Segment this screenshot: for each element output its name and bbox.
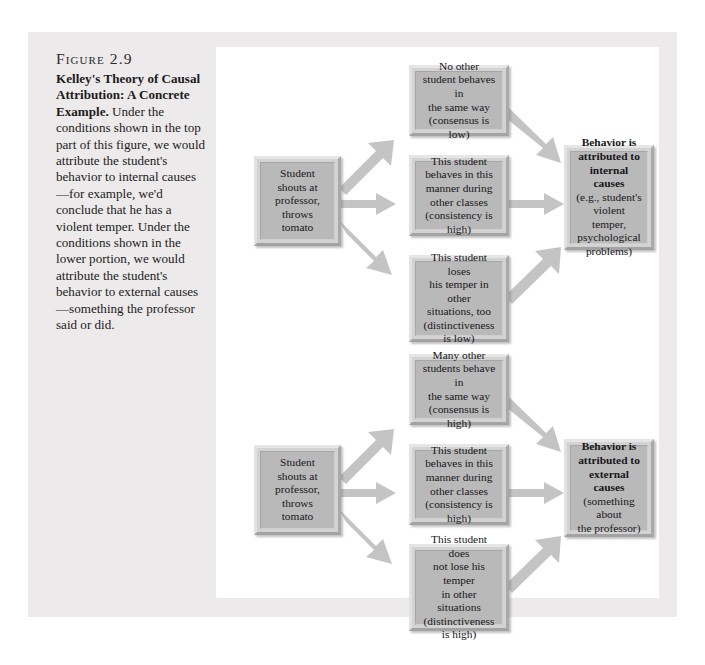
node-bottom-consensus-label: Many otherstudents behave inthe same way… [416,349,502,431]
figure-caption-block: Figure 2.9 Kelley's Theory of Causal Att… [56,50,208,334]
node-top-distinctiveness[interactable]: This student loseshis temper in othersit… [409,255,509,342]
arrow-bottom-cause-to-consensus [339,429,394,484]
node-bottom-consistency-inner: This studentbehaves in thismanner during… [415,450,503,519]
node-top-consensus[interactable]: No otherstudent behaves inthe same way(c… [409,65,509,136]
node-bottom-consistency[interactable]: This studentbehaves in thismanner during… [409,444,509,525]
node-bottom-consensus[interactable]: Many otherstudents behave inthe same way… [409,354,509,425]
node-top-consistency[interactable]: This studentbehaves in thismanner during… [409,155,509,236]
figure-panel: Figure 2.9 Kelley's Theory of Causal Att… [28,32,677,617]
node-bottom-distinctiveness[interactable]: This student doesnot lose his temperin o… [409,544,509,631]
node-bottom-distinctiveness-label: This student doesnot lose his temperin o… [416,533,502,642]
node-top-consistency-label: This studentbehaves in thismanner during… [416,155,502,237]
node-bottom-outcome[interactable]: Behavior isattributed toexternal causes(… [564,439,654,537]
node-bottom-outcome-label: Behavior isattributed toexternal causes(… [571,440,647,535]
node-top-cause[interactable]: Student shouts atprofessor, throwstomato [254,156,341,246]
node-top-distinctiveness-inner: This student loseshis temper in othersit… [415,261,503,336]
arrow-bottom-cause-to-distinctiveness [339,509,392,564]
figure-caption-text: Kelley's Theory of Causal Attribution: A… [56,71,208,334]
arrow-bottom-distinctiveness-to-outcome [505,536,561,593]
node-top-cause-inner: Student shouts atprofessor, throwstomato [260,162,335,240]
arrow-top-cause-to-consistency [339,193,396,215]
node-top-consistency-inner: This studentbehaves in thismanner during… [415,161,503,230]
node-top-outcome-inner: Behavior isattributed tointernal causes(… [570,151,648,244]
node-bottom-cause-label: Student shouts atprofessor, throwstomato [261,456,334,524]
node-bottom-outcome-inner: Behavior isattributed toexternal causes(… [570,445,648,531]
arrow-bottom-cause-to-consistency [339,482,396,504]
node-bottom-cause[interactable]: Student shouts atprofessor, throwstomato [254,445,341,535]
arrow-bottom-consistency-to-outcome [508,482,564,504]
arrow-top-distinctiveness-to-outcome [505,247,561,304]
node-top-consensus-label: No otherstudent behaves inthe same way(c… [416,60,502,142]
diagram-area: Student shouts atprofessor, throwstomato… [216,47,659,598]
arrow-top-cause-to-distinctiveness [339,220,392,275]
node-bottom-consistency-label: This studentbehaves in thismanner during… [416,444,502,526]
node-top-consensus-inner: No otherstudent behaves inthe same way(c… [415,71,503,130]
arrow-top-cause-to-consensus [339,140,394,195]
node-top-distinctiveness-label: This student loseshis temper in othersit… [416,251,502,346]
node-bottom-distinctiveness-inner: This student doesnot lose his temperin o… [415,550,503,625]
node-bottom-consensus-inner: Many otherstudents behave inthe same way… [415,360,503,419]
node-top-cause-label: Student shouts atprofessor, throwstomato [261,167,334,235]
caption-body: Under the conditions shown in the top pa… [56,104,205,332]
arrow-bottom-consensus-to-outcome [502,396,561,452]
arrow-top-consensus-to-outcome [502,107,561,163]
node-bottom-cause-inner: Student shouts atprofessor, throwstomato [260,451,335,529]
figure-number: Figure 2.9 [56,50,208,68]
node-top-outcome-label: Behavior isattributed tointernal causes(… [571,136,647,258]
node-top-outcome[interactable]: Behavior isattributed tointernal causes(… [564,145,654,250]
arrow-top-consistency-to-outcome [508,193,564,215]
